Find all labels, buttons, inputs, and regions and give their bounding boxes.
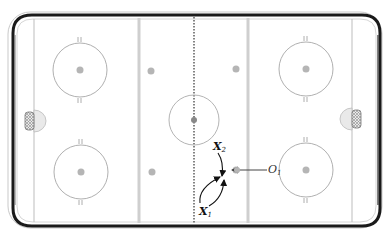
player-number: 1 xyxy=(277,169,281,177)
player-number: 2 xyxy=(222,146,226,154)
neutral-dot-top-left xyxy=(148,68,155,75)
player-letter: X xyxy=(213,140,222,153)
left-goal xyxy=(25,110,46,132)
neutral-dot-top-right xyxy=(233,66,240,73)
player-label-o1: O1 xyxy=(268,164,282,177)
right-goal xyxy=(340,108,361,130)
player-label-x1: X1 xyxy=(199,206,212,219)
left-net-icon xyxy=(25,112,34,130)
player-number: 1 xyxy=(208,211,212,219)
player-label-x2: X2 xyxy=(213,141,226,154)
player-letter: O xyxy=(268,163,277,176)
center-dot xyxy=(191,117,197,123)
right-net-icon xyxy=(352,110,361,128)
hockey-rink-diagram xyxy=(0,0,386,239)
player-letter: X xyxy=(199,205,208,218)
puck-icon xyxy=(234,167,240,173)
neutral-dot-bottom-left xyxy=(149,169,156,176)
